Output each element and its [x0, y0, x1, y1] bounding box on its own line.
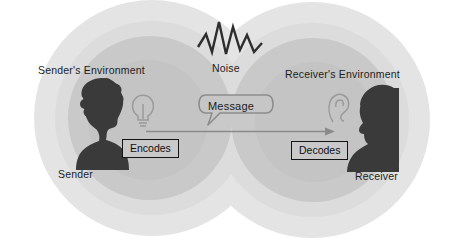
- encodes-box: Encodes: [122, 139, 179, 158]
- noise-label: Noise: [212, 62, 240, 74]
- receiver-environment-label: Receiver's Environment: [285, 68, 400, 80]
- sender-environment-label: Sender's Environment: [38, 64, 145, 76]
- sender-label: Sender: [58, 168, 93, 180]
- decodes-box: Decodes: [291, 141, 348, 160]
- diagram-canvas: [0, 0, 461, 252]
- receiver-label: Receiver: [355, 170, 398, 182]
- communication-model-diagram: Sender's Environment Receiver's Environm…: [0, 0, 461, 252]
- message-label: Message: [208, 100, 254, 112]
